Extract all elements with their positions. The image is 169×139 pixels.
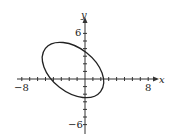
y-axis-label: y	[80, 9, 87, 20]
y-max-tick-label: 6	[75, 27, 81, 38]
y-axis	[83, 17, 88, 134]
ellipse-curve	[32, 31, 114, 109]
ellipse-graph: x y −8 8 6 −6	[0, 0, 169, 139]
x-axis-label: x	[159, 74, 165, 85]
x-axis	[17, 77, 159, 82]
x-min-tick-label: −8	[14, 82, 29, 93]
y-min-tick-label: −6	[68, 119, 83, 130]
x-max-tick-label: 8	[145, 82, 151, 93]
